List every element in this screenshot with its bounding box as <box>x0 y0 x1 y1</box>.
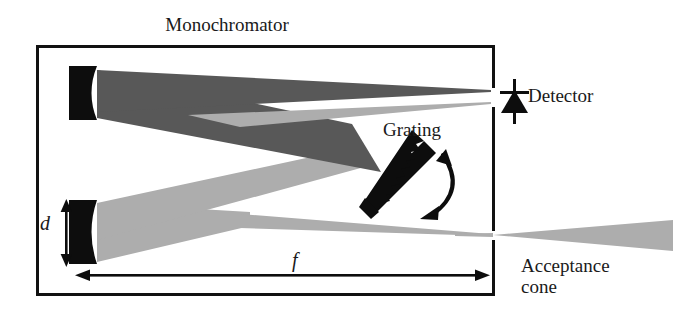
enclosure-right-wall-mid <box>492 107 495 231</box>
grating-rotation-arrowhead-bottom <box>420 206 439 220</box>
grating <box>359 130 436 219</box>
acceptance-cone-label: Acceptancecone <box>521 255 610 298</box>
f-arrowhead-right <box>475 270 490 281</box>
page-title: Monochromator <box>0 14 454 35</box>
f-arrowhead-left <box>75 270 90 281</box>
focal-length-symbol-label: f <box>292 249 298 271</box>
slit-height-symbol-label: d <box>40 212 50 234</box>
grating-label: Grating <box>383 119 441 140</box>
enclosure-right-wall-lower <box>492 240 495 296</box>
enclosure-bottom-wall <box>36 293 495 296</box>
monochromator-figure: Monochromator Detector Grating Acceptanc… <box>0 0 673 317</box>
acceptance-cone-label-line1: Acceptance <box>521 255 610 276</box>
beam-acceptance-cone <box>493 220 673 251</box>
exit-mirror <box>69 66 97 120</box>
detector-label: Detector <box>528 85 593 106</box>
enclosure-right-wall-upper <box>492 45 495 88</box>
d-arrow-shaft <box>65 204 68 262</box>
detector-icon <box>500 79 529 124</box>
grating-rotation-arrowhead-top <box>436 149 452 166</box>
focal-length-dimension <box>75 270 490 281</box>
acceptance-cone-label-line2: cone <box>521 276 557 297</box>
enclosure-left-wall <box>36 45 39 296</box>
beam-grating-to-exit-focus <box>240 214 491 236</box>
f-arrow-shaft <box>82 274 482 277</box>
entrance-mirror <box>69 200 97 264</box>
enclosure-top-wall <box>36 45 495 48</box>
